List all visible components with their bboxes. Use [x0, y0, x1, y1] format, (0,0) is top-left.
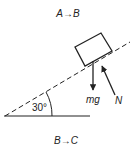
incline-diagram: A→B 30° mg N B→C — [0, 0, 132, 145]
title-a-to-b: A→B — [55, 8, 80, 19]
normal-force-label: N — [115, 95, 123, 106]
title-b-to-c: B→C — [54, 135, 79, 145]
angle-label: 30° — [32, 102, 47, 113]
weight-label: mg — [86, 94, 100, 105]
incline-dashed-line — [5, 42, 130, 116]
normal-force-arrow — [102, 66, 115, 95]
